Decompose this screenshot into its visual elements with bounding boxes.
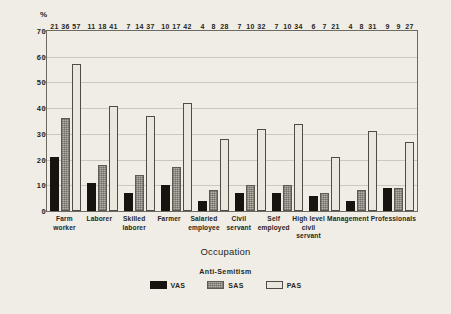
bar-column: 9 [394, 31, 403, 211]
bar-column: 7 [272, 31, 281, 211]
bar-vas: 7 [272, 193, 281, 211]
bar-group: 9927 [380, 31, 417, 211]
bar-sas: 17 [172, 167, 181, 211]
bar-pas: 41 [109, 106, 118, 211]
y-axis: 010203040506070 [0, 30, 46, 212]
bar-group: 6721 [306, 31, 343, 211]
bar-value-label: 36 [61, 23, 69, 30]
bar-column: 36 [61, 31, 70, 211]
bar-column: 37 [146, 31, 155, 211]
bar-column: 34 [294, 31, 303, 211]
bar-column: 10 [246, 31, 255, 211]
bar-column: 8 [209, 31, 218, 211]
bar-group: 71032 [232, 31, 269, 211]
bar-vas: 6 [309, 196, 318, 211]
bar-value-label: 6 [311, 23, 315, 30]
bar-column: 18 [98, 31, 107, 211]
bar-column: 8 [357, 31, 366, 211]
legend-item-sas[interactable]: SAS [207, 281, 243, 289]
x-axis-label: Management [326, 215, 370, 241]
bar-value-label: 7 [237, 23, 241, 30]
bar-value-label: 10 [161, 23, 169, 30]
x-axis-label-line: Skilled [118, 215, 151, 224]
bar-vas: 9 [383, 188, 392, 211]
x-axis-label: Salariedemployee [187, 215, 222, 241]
bar-vas: 4 [346, 201, 355, 211]
x-axis-label-line: employee [188, 224, 221, 233]
bar-column: 9 [383, 31, 392, 211]
legend-swatch-vas [150, 281, 167, 289]
bar-value-label: 57 [72, 23, 80, 30]
bar-sas: 7 [320, 193, 329, 211]
bar-value-label: 4 [200, 23, 204, 30]
bar-column: 32 [257, 31, 266, 211]
bar-column: 57 [72, 31, 81, 211]
bar-value-label: 8 [359, 23, 363, 30]
bar-pas: 28 [220, 139, 229, 211]
x-axis-label-line: Self [257, 215, 290, 224]
x-axis-label-line: worker [48, 224, 81, 233]
bar-sas: 18 [98, 165, 107, 211]
bar-column: 42 [183, 31, 192, 211]
x-axis-category-labels: FarmworkerLaborerSkilledlaborerFarmerSal… [47, 215, 417, 241]
legend: VASSASPAS [0, 281, 451, 289]
bar-pas: 21 [331, 157, 340, 211]
bar-group: 4828 [195, 31, 232, 211]
bar-column: 41 [109, 31, 118, 211]
y-axis-tick-label: 40 [8, 104, 46, 113]
y-axis-tick-label: 20 [8, 155, 46, 164]
bar-value-label: 8 [211, 23, 215, 30]
x-axis-label-line: Civil [222, 215, 255, 224]
bar-pas: 34 [294, 124, 303, 211]
bar-value-label: 41 [109, 23, 117, 30]
y-axis-tick-label: 70 [8, 27, 46, 36]
bar-group: 101742 [158, 31, 195, 211]
x-axis-label: High levelcivil servant [291, 215, 326, 241]
bar-value-label: 32 [257, 23, 265, 30]
bar-group: 213657 [47, 31, 84, 211]
bar-value-label: 27 [405, 23, 413, 30]
bar-column: 10 [283, 31, 292, 211]
bar-groups: 2136571118417143710174248287103271034672… [47, 31, 417, 211]
x-axis-label: Farmworker [47, 215, 82, 241]
x-axis-label-line: Farmer [153, 215, 186, 224]
x-axis-title: Occupation [0, 246, 451, 257]
legend-item-pas[interactable]: PAS [266, 281, 302, 289]
bar-value-label: 7 [322, 23, 326, 30]
bar-column: 28 [220, 31, 229, 211]
legend-item-vas[interactable]: VAS [150, 281, 186, 289]
bar-vas: 7 [124, 193, 133, 211]
bar-vas: 11 [87, 183, 96, 211]
bar-chart: % 010203040506070 2136571118417143710174… [0, 0, 451, 314]
x-axis-label-line: Farm [48, 215, 81, 224]
x-axis-label-line: Management [327, 215, 369, 224]
x-axis-label: Laborer [82, 215, 117, 241]
bar-column: 7 [124, 31, 133, 211]
bar-sas: 9 [394, 188, 403, 211]
bar-column: 21 [50, 31, 59, 211]
bar-group: 71437 [121, 31, 158, 211]
legend-label: SAS [228, 282, 243, 289]
bar-value-label: 7 [126, 23, 130, 30]
bar-value-label: 10 [246, 23, 254, 30]
x-axis-label: Professionals [370, 215, 417, 241]
bar-vas: 10 [161, 185, 170, 211]
bar-column: 11 [87, 31, 96, 211]
bar-value-label: 4 [348, 23, 352, 30]
bar-sas: 10 [283, 185, 292, 211]
bar-sas: 14 [135, 175, 144, 211]
bar-column: 7 [320, 31, 329, 211]
bar-value-label: 37 [146, 23, 154, 30]
bar-value-label: 9 [385, 23, 389, 30]
bar-value-label: 7 [274, 23, 278, 30]
bar-pas: 37 [146, 116, 155, 211]
x-axis-label: Farmer [152, 215, 187, 241]
bar-value-label: 42 [183, 23, 191, 30]
bar-value-label: 21 [50, 23, 58, 30]
bar-column: 14 [135, 31, 144, 211]
bar-group: 71034 [269, 31, 306, 211]
bar-value-label: 18 [98, 23, 106, 30]
y-axis-tick-label: 50 [8, 78, 46, 87]
x-axis-label-line: High level [292, 215, 325, 224]
bar-column: 31 [368, 31, 377, 211]
